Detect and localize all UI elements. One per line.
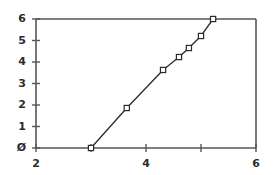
y-tick-label: 5: [10, 35, 26, 46]
y-tick-label: 3: [10, 78, 26, 89]
series-line: [91, 19, 213, 148]
data-point-marker[interactable]: [198, 33, 203, 38]
y-tick-label: Ø: [10, 142, 26, 153]
data-point-marker[interactable]: [176, 54, 181, 59]
y-tick-label: 2: [10, 99, 26, 110]
data-point-marker[interactable]: [160, 67, 165, 72]
y-tick-label: 1: [10, 121, 26, 132]
x-tick-label: 4: [136, 158, 156, 169]
data-point-marker[interactable]: [211, 16, 216, 21]
plot-area: [0, 0, 275, 175]
data-point-marker[interactable]: [88, 145, 93, 150]
data-point-marker[interactable]: [186, 45, 191, 50]
x-tick-label: 6: [246, 158, 266, 169]
x-tick-label: 2: [26, 158, 46, 169]
y-tick-label: 4: [10, 56, 26, 67]
chart-container: Ø123456246: [0, 0, 275, 175]
y-tick-label: 6: [10, 13, 26, 24]
data-point-marker[interactable]: [124, 105, 129, 110]
